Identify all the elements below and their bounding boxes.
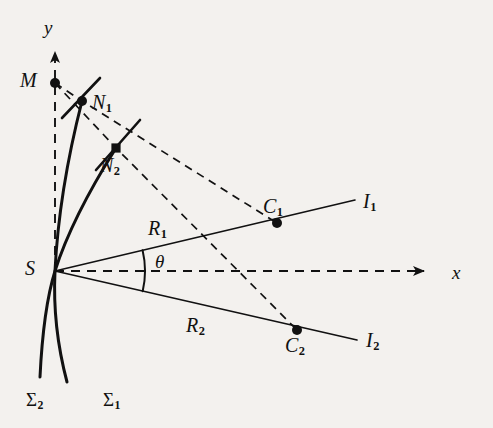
label-y: y xyxy=(44,18,52,37)
point-marker-M xyxy=(50,78,60,88)
label-x: x xyxy=(452,263,460,282)
label-N2: N2 xyxy=(100,155,120,178)
label-x-base: x xyxy=(452,262,460,283)
label-N1: N1 xyxy=(92,92,112,115)
point-marker-C1 xyxy=(272,218,282,228)
label-I1: I1 xyxy=(363,191,376,214)
label-Sigma1-base: Σ xyxy=(103,389,114,410)
wavefront-curves-group xyxy=(40,101,116,382)
label-C2: C2 xyxy=(285,335,305,358)
label-I2-subscript: 2 xyxy=(373,339,379,353)
label-R2-base: R xyxy=(186,314,198,336)
dashed-ray-through-N1 xyxy=(55,83,277,223)
label-Sigma2: Σ2 xyxy=(26,390,43,412)
diagram-canvas xyxy=(0,0,493,428)
label-theta-base: θ xyxy=(155,251,164,272)
label-M: M xyxy=(20,70,37,90)
point-marker-N1 xyxy=(77,96,87,106)
label-y-base: y xyxy=(44,17,52,38)
wavefront-sigma-2 xyxy=(55,101,82,382)
label-I2-base: I xyxy=(366,329,373,351)
label-C1: C1 xyxy=(263,196,283,219)
label-S-base: S xyxy=(25,257,35,279)
solid-lines-group xyxy=(55,78,357,340)
label-C2-subscript: 2 xyxy=(299,344,305,358)
label-N2-base: N xyxy=(100,154,113,176)
label-M-base: M xyxy=(20,69,37,91)
label-R2-subscript: 2 xyxy=(199,324,205,338)
label-I1-base: I xyxy=(363,190,370,212)
label-theta: θ xyxy=(155,252,164,271)
label-R1-subscript: 1 xyxy=(161,227,167,241)
label-C1-base: C xyxy=(263,195,276,217)
label-Sigma1: Σ1 xyxy=(103,390,120,412)
figure-container: yxMN1N2C1C2I1I2R1R2θΣ1Σ2S xyxy=(0,0,493,428)
label-R2: R2 xyxy=(186,315,205,338)
dashed-ray-through-N2 xyxy=(55,83,297,330)
label-R1: R1 xyxy=(148,218,167,241)
label-N1-base: N xyxy=(92,91,105,113)
label-N2-subscript: 2 xyxy=(114,164,120,178)
label-S: S xyxy=(25,258,35,278)
wavefront-sigma-1 xyxy=(40,148,116,377)
label-Sigma1-subscript: 1 xyxy=(115,399,121,412)
ray-R1 xyxy=(55,200,355,271)
label-R1-base: R xyxy=(148,217,160,239)
label-N1-subscript: 1 xyxy=(106,101,112,115)
ray-R2 xyxy=(55,271,357,340)
label-Sigma2-base: Σ xyxy=(26,389,37,410)
label-I1-subscript: 1 xyxy=(370,200,376,214)
label-I2: I2 xyxy=(366,330,379,353)
label-Sigma2-subscript: 2 xyxy=(38,399,44,412)
label-C1-subscript: 1 xyxy=(277,205,283,219)
label-C2-base: C xyxy=(285,334,298,356)
point-marker-N2 xyxy=(111,143,120,152)
